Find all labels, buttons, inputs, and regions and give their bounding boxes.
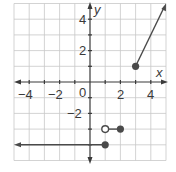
x-axis-label: x <box>155 65 163 80</box>
piece-segment <box>102 126 124 133</box>
x-tick-label-neg2: −2 <box>48 87 63 102</box>
y-tick-label-neg2: −2 <box>67 106 82 121</box>
y-tick-label-2: 2 <box>79 43 86 58</box>
x-axis <box>14 80 168 85</box>
origin-label: 0 <box>79 85 86 100</box>
open-point-1-neg3 <box>102 126 109 133</box>
piecewise-graph: y x −4 −2 0 2 4 4 2 −2 <box>0 0 176 172</box>
x-tick-label-2: 2 <box>117 87 124 102</box>
piece-ray-right <box>132 4 166 70</box>
x-tick-label-neg4: −4 <box>18 87 33 102</box>
y-axis <box>88 2 93 164</box>
y-tick-label-4: 4 <box>79 12 86 27</box>
closed-point-1-neg4 <box>102 141 109 148</box>
piece-ray-left <box>14 141 109 148</box>
closed-point-3-1 <box>132 63 139 70</box>
x-tick-label-4: 4 <box>147 87 154 102</box>
y-axis-label: y <box>93 2 102 17</box>
closed-point-2-neg3 <box>117 126 124 133</box>
